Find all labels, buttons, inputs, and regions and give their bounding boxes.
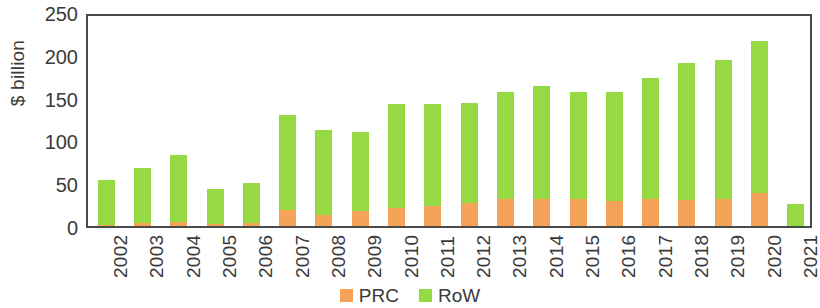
x-axis-tick-label: 2012 bbox=[474, 235, 493, 278]
bar-segment-prc[interactable] bbox=[461, 203, 478, 226]
bar-segment-row[interactable] bbox=[243, 183, 260, 223]
bar-segment-prc[interactable] bbox=[134, 223, 151, 226]
bar-segment-prc[interactable] bbox=[315, 215, 332, 226]
plot-area bbox=[86, 14, 812, 228]
x-axis-tick-labels: 2002200320042005200620072008200920102011… bbox=[86, 232, 812, 278]
x-axis-tick-label: 2015 bbox=[583, 235, 602, 278]
bar-group[interactable] bbox=[642, 78, 659, 226]
y-axis-tick-label: 50 bbox=[26, 175, 78, 195]
x-axis-tick-label: 2016 bbox=[619, 235, 638, 278]
x-axis-tick-label: 2009 bbox=[365, 235, 384, 278]
y-axis-tick-label: 0 bbox=[26, 218, 78, 238]
bar-segment-row[interactable] bbox=[606, 92, 623, 201]
bar-segment-prc[interactable] bbox=[497, 199, 514, 226]
bar-segment-row[interactable] bbox=[533, 86, 550, 200]
bar-group[interactable] bbox=[388, 104, 405, 226]
bar-group[interactable] bbox=[606, 92, 623, 226]
x-axis-tick-label: 2018 bbox=[692, 235, 711, 278]
bar-group[interactable] bbox=[134, 168, 151, 226]
x-axis-tick-label: 2010 bbox=[402, 235, 421, 278]
bar-group[interactable] bbox=[279, 115, 296, 226]
bar-group[interactable] bbox=[751, 41, 768, 226]
x-axis-tick-label: 2017 bbox=[656, 235, 675, 278]
bar-segment-row[interactable] bbox=[207, 189, 224, 224]
bar-segment-row[interactable] bbox=[461, 103, 478, 203]
bar-segment-row[interactable] bbox=[315, 130, 332, 215]
x-axis-tick-label: 2008 bbox=[329, 235, 348, 278]
x-axis-tick-label: 2021 bbox=[801, 235, 820, 278]
bar-segment-row[interactable] bbox=[642, 78, 659, 200]
x-axis-tick-label: 2002 bbox=[111, 235, 130, 278]
chart-legend: PRCRoW bbox=[0, 286, 820, 305]
bar-segment-prc[interactable] bbox=[388, 208, 405, 226]
legend-label: PRC bbox=[359, 286, 399, 305]
bar-segment-row[interactable] bbox=[787, 204, 804, 226]
bar-segment-prc[interactable] bbox=[678, 200, 695, 226]
legend-item[interactable]: RoW bbox=[419, 286, 480, 305]
bar-group[interactable] bbox=[497, 92, 514, 226]
bar-group[interactable] bbox=[243, 183, 260, 226]
bar-segment-row[interactable] bbox=[751, 41, 768, 193]
bar-segment-row[interactable] bbox=[279, 115, 296, 210]
bars-layer bbox=[88, 16, 810, 226]
bar-segment-row[interactable] bbox=[352, 132, 369, 212]
bar-segment-prc[interactable] bbox=[642, 199, 659, 226]
bar-group[interactable] bbox=[207, 189, 224, 226]
x-axis-tick-label: 2003 bbox=[147, 235, 166, 278]
bar-segment-row[interactable] bbox=[98, 180, 115, 225]
x-axis-tick-label: 2019 bbox=[728, 235, 747, 278]
x-axis-tick-label: 2005 bbox=[220, 235, 239, 278]
bar-segment-row[interactable] bbox=[715, 60, 732, 199]
bar-segment-row[interactable] bbox=[388, 104, 405, 208]
y-axis-tick-label: 200 bbox=[26, 47, 78, 67]
bar-group[interactable] bbox=[678, 63, 695, 226]
bar-segment-row[interactable] bbox=[134, 168, 151, 223]
bar-segment-prc[interactable] bbox=[424, 206, 441, 226]
bar-segment-row[interactable] bbox=[678, 63, 695, 201]
bar-segment-prc[interactable] bbox=[606, 201, 623, 226]
bar-group[interactable] bbox=[170, 155, 187, 226]
y-axis-tick-labels: 050100150200250 bbox=[26, 0, 78, 240]
bar-segment-prc[interactable] bbox=[715, 199, 732, 226]
bar-segment-prc[interactable] bbox=[243, 223, 260, 226]
y-axis-tick-label: 100 bbox=[26, 132, 78, 152]
bar-segment-prc[interactable] bbox=[279, 210, 296, 226]
legend-label: RoW bbox=[438, 286, 480, 305]
bar-segment-prc[interactable] bbox=[570, 199, 587, 226]
square-swatch-icon bbox=[419, 289, 432, 302]
bar-group[interactable] bbox=[461, 103, 478, 226]
bar-group[interactable] bbox=[424, 104, 441, 226]
x-axis-tick-label: 2014 bbox=[547, 235, 566, 278]
x-axis-tick-label: 2011 bbox=[438, 236, 457, 278]
bar-segment-row[interactable] bbox=[170, 155, 187, 222]
legend-item[interactable]: PRC bbox=[340, 286, 399, 305]
x-axis-tick-label: 2013 bbox=[510, 235, 529, 278]
bar-group[interactable] bbox=[315, 130, 332, 226]
bar-segment-row[interactable] bbox=[570, 92, 587, 200]
bar-segment-prc[interactable] bbox=[207, 224, 224, 226]
bar-segment-row[interactable] bbox=[497, 92, 514, 200]
bar-group[interactable] bbox=[352, 132, 369, 226]
bar-segment-prc[interactable] bbox=[751, 193, 768, 226]
bar-segment-prc[interactable] bbox=[98, 225, 115, 226]
bar-segment-prc[interactable] bbox=[533, 199, 550, 226]
y-axis-tick-label: 250 bbox=[26, 4, 78, 24]
bar-segment-prc[interactable] bbox=[352, 211, 369, 226]
x-axis-tick-label: 2007 bbox=[293, 235, 312, 278]
bar-group[interactable] bbox=[98, 180, 115, 226]
bar-group[interactable] bbox=[787, 204, 804, 226]
stacked-bar-chart: $ billion 050100150200250 20022003200420… bbox=[0, 0, 820, 308]
x-axis-tick-label: 2004 bbox=[184, 235, 203, 278]
bar-group[interactable] bbox=[533, 86, 550, 226]
square-swatch-icon bbox=[340, 289, 353, 302]
y-axis-tick-label: 150 bbox=[26, 90, 78, 110]
x-axis-tick-label: 2020 bbox=[765, 235, 784, 278]
bar-segment-row[interactable] bbox=[424, 104, 441, 206]
x-axis-tick-label: 2006 bbox=[256, 235, 275, 278]
bar-segment-prc[interactable] bbox=[170, 222, 187, 226]
bar-group[interactable] bbox=[715, 60, 732, 226]
bar-group[interactable] bbox=[570, 92, 587, 226]
